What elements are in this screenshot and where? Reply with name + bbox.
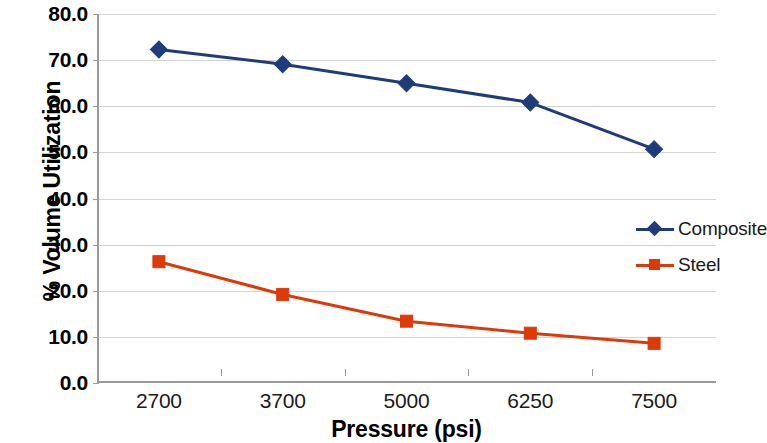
- data-point-marker: [274, 56, 291, 73]
- legend-label: Composite: [674, 218, 767, 240]
- data-point-marker: [401, 315, 413, 327]
- legend-swatch: [636, 258, 674, 272]
- data-point-marker: [648, 337, 660, 349]
- data-point-marker: [150, 41, 167, 58]
- diamond-marker-icon: [647, 221, 663, 237]
- legend-swatch: [636, 222, 674, 236]
- legend-label: Steel: [674, 254, 720, 276]
- data-point-marker: [398, 75, 415, 92]
- data-point-marker: [522, 94, 539, 111]
- data-point-marker: [277, 288, 289, 300]
- x-axis-title: Pressure (psi): [97, 416, 716, 443]
- series-line-composite: [159, 50, 654, 150]
- square-marker-icon: [649, 259, 660, 270]
- legend-item-steel[interactable]: Steel: [636, 247, 756, 283]
- data-point-marker: [646, 141, 663, 158]
- data-point-marker: [153, 256, 165, 268]
- chart-legend: CompositeSteel: [636, 211, 756, 283]
- legend-item-composite[interactable]: Composite: [636, 211, 756, 247]
- data-point-marker: [524, 327, 536, 339]
- series-line-steel: [159, 262, 654, 344]
